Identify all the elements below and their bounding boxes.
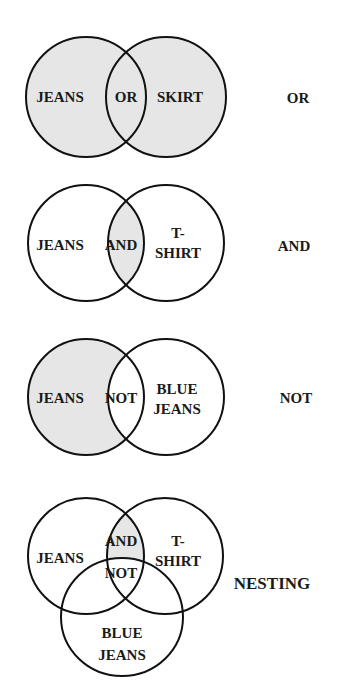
nesting-label-left: JEANS <box>36 550 84 566</box>
not-diagram: JEANS NOT BLUE JEANS NOT <box>28 339 312 455</box>
nesting-label-right-2: SHIRT <box>155 553 201 569</box>
nesting-label-right-1: T- <box>171 533 185 549</box>
nesting-diagram: JEANS AND NOT T- SHIRT BLUE JEANS NESTIN… <box>28 498 310 676</box>
and-operator-label: AND <box>278 238 311 254</box>
nesting-label-center-bottom: NOT <box>105 565 138 581</box>
or-label-center: OR <box>115 89 138 105</box>
nesting-label-bottom-1: BLUE <box>102 625 143 641</box>
venn-diagrams: JEANS OR SKIRT OR JEANS AND T- SHIRT AND… <box>0 0 337 699</box>
nesting-label-bottom-2: JEANS <box>98 647 146 663</box>
not-label-center: NOT <box>105 390 138 406</box>
not-label-right-1: BLUE <box>157 381 198 397</box>
or-label-left: JEANS <box>36 89 84 105</box>
or-diagram: JEANS OR SKIRT OR <box>26 37 309 157</box>
or-label-right: SKIRT <box>157 89 203 105</box>
not-label-right-2: JEANS <box>153 401 201 417</box>
nesting-label-center-top: AND <box>105 533 138 549</box>
and-diagram: JEANS AND T- SHIRT AND <box>28 185 310 301</box>
and-label-center: AND <box>105 237 138 253</box>
nesting-operator-label: NESTING <box>234 574 311 593</box>
and-label-right-2: SHIRT <box>155 245 201 261</box>
and-label-left: JEANS <box>36 237 84 253</box>
not-label-left: JEANS <box>36 390 84 406</box>
or-operator-label: OR <box>287 90 310 106</box>
and-label-right-1: T- <box>171 225 185 241</box>
not-operator-label: NOT <box>280 390 313 406</box>
